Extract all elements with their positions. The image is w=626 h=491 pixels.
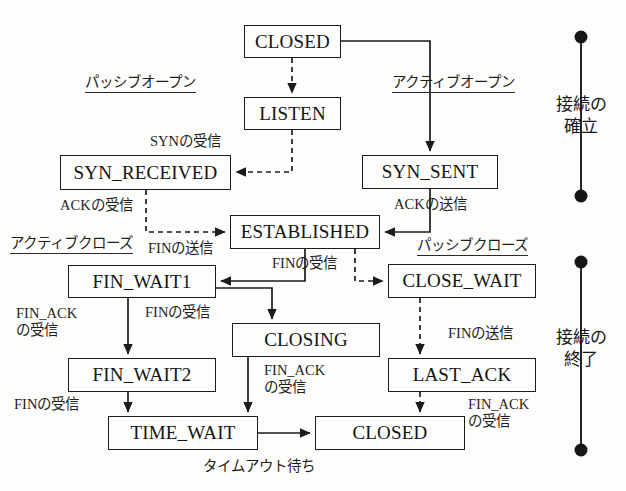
state-box-fin-wait1[interactable]: FIN_WAIT1 [68, 265, 216, 298]
state-box-closing[interactable]: CLOSING [232, 323, 380, 357]
edge-established-to-close-wait [355, 249, 383, 281]
edge-label-ack-sent-event: ACKの送信 [394, 196, 467, 213]
state-label: CLOSE_WAIT [402, 270, 521, 292]
state-box-listen[interactable]: LISTEN [244, 97, 341, 130]
state-label: CLOSING [264, 329, 348, 351]
state-box-last-ack[interactable]: LAST_ACK [388, 358, 536, 392]
state-box-close-wait[interactable]: CLOSE_WAIT [388, 264, 536, 298]
edge-label-syn-received-event: SYNの受信 [150, 133, 221, 150]
bracket-label-connection-terminate: 接続の 終了 [546, 327, 616, 371]
edge-listen-to-syn-received [236, 130, 292, 172]
state-label: FIN_WAIT2 [93, 364, 192, 386]
edge-label-fin-ack-received-left: FIN_ACK の受信 [16, 305, 77, 339]
state-label: CLOSED [352, 422, 427, 444]
phase-label-active-close: アクティブクローズ [10, 231, 133, 254]
tcp-state-diagram: CLOSED LISTEN SYN_RECEIVED SYN_SENT ESTA… [0, 0, 626, 491]
state-label: SYN_RECEIVED [74, 162, 218, 184]
edge-label-fin-received-mid: FINの受信 [272, 255, 337, 272]
state-label: LISTEN [259, 103, 326, 125]
bracket-label-connection-establish: 接続の 確立 [546, 94, 616, 138]
edge-label-fin-sent-close-wait: FINの送信 [448, 325, 513, 342]
state-label: SYN_SENT [382, 161, 479, 183]
state-box-closed-bottom[interactable]: CLOSED [315, 416, 465, 450]
edge-closed-to-syn-sent [341, 41, 430, 151]
state-box-established[interactable]: ESTABLISHED [230, 215, 380, 249]
edge-label-fin-ack-received-center: FIN_ACK の受信 [264, 362, 325, 396]
state-box-closed-top[interactable]: CLOSED [244, 25, 341, 58]
state-label: LAST_ACK [413, 364, 512, 386]
state-box-time-wait[interactable]: TIME_WAIT [108, 416, 258, 450]
edge-label-fin-sent-event: FINの送信 [148, 240, 213, 257]
phase-label-active-open: アクティブオープン [392, 70, 515, 93]
state-box-syn-sent[interactable]: SYN_SENT [362, 155, 498, 189]
edge-label-fin-received-closing: FINの受信 [145, 304, 210, 321]
state-box-syn-received[interactable]: SYN_RECEIVED [60, 155, 231, 190]
phase-label-passive-close: パッシブクローズ [417, 233, 528, 256]
edge-fin-wait1-to-closing [216, 288, 272, 319]
edge-label-timeout-wait: タイムアウト待ち [203, 458, 315, 475]
edge-label-ack-received-event: ACKの受信 [60, 197, 133, 214]
state-label: TIME_WAIT [130, 422, 235, 444]
state-label: ESTABLISHED [241, 221, 369, 243]
edge-label-fin-received-fin-wait2: FINの受信 [14, 396, 79, 413]
state-box-fin-wait2[interactable]: FIN_WAIT2 [68, 358, 216, 392]
edge-label-fin-ack-received-right: FIN_ACK の受信 [468, 396, 529, 430]
state-label: CLOSED [255, 31, 330, 53]
state-label: FIN_WAIT1 [93, 271, 192, 293]
phase-label-passive-open: パッシブオープン [85, 70, 196, 93]
edge-syn-received-to-established [146, 190, 225, 232]
